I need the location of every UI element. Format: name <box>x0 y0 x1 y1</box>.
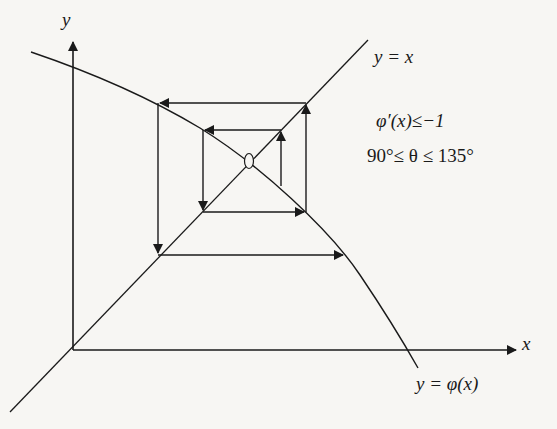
cobweb-diagram <box>0 0 557 429</box>
phi-curve <box>31 52 418 368</box>
angle-condition-label: 90°≤ θ ≤ 135° <box>367 146 474 165</box>
curve-label: y = φ(x) <box>416 374 478 393</box>
identity-line-label: y = x <box>374 47 413 66</box>
x-axis-label: x <box>522 334 530 353</box>
derivative-condition-label: φ′(x)≤−1 <box>376 111 445 130</box>
fixed-point-marker <box>245 154 254 169</box>
identity-line <box>10 40 368 412</box>
y-axis-label: y <box>62 10 70 29</box>
